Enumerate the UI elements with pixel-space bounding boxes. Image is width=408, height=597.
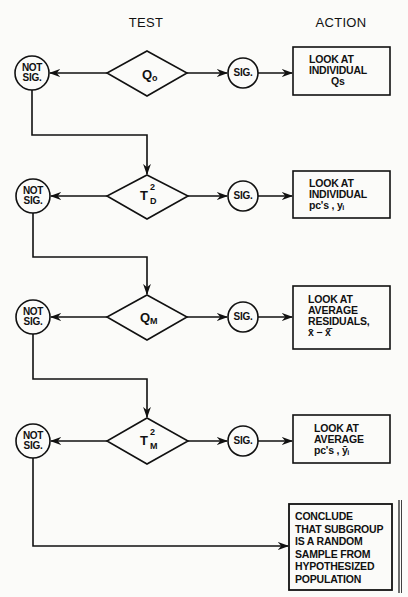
conclusion-text: CONCLUDE THAT SUBGROUP IS A RANDOM SAMPL… bbox=[295, 510, 383, 585]
action-text-1: LOOK AT INDIVIDUAL Qs bbox=[309, 54, 367, 87]
sig-label-3: SIG. bbox=[234, 312, 253, 322]
sig-label-1: SIG. bbox=[234, 68, 253, 78]
not-sig-label-2: NOT SIG. bbox=[23, 186, 43, 206]
test-statistic-3: QM bbox=[140, 310, 150, 325]
test-statistic-4: T2M bbox=[140, 433, 148, 448]
test-column-header: TEST bbox=[129, 15, 163, 30]
action-text-4: LOOK AT AVERAGE pc's , ȳᵢ bbox=[314, 423, 364, 456]
sig-label-2: SIG. bbox=[234, 191, 253, 201]
action-text-2: LOOK AT INDIVIDUAL pc's , yᵢ bbox=[309, 178, 367, 211]
sig-label-4: SIG. bbox=[234, 436, 253, 446]
not-sig-label-1: NOT SIG. bbox=[22, 63, 42, 83]
action-column-header: ACTION bbox=[316, 15, 367, 30]
not-sig-label-4: NOT SIG. bbox=[23, 431, 43, 451]
test-statistic-1: Qo bbox=[142, 67, 152, 82]
action-text-3: LOOK AT AVERAGE RESIDUALS, x̄ − x̂̄ bbox=[308, 294, 370, 338]
not-sig-label-3: NOT SIG. bbox=[23, 307, 43, 327]
test-statistic-2: T2D bbox=[140, 188, 148, 203]
